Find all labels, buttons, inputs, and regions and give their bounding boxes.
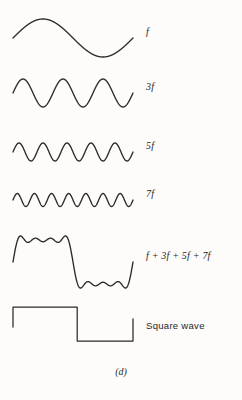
- waveform-f: [13, 19, 133, 57]
- waveform-canvas: [0, 0, 242, 400]
- fourier-square-wave-figure: f 3f 5f 7f f + 3f + 5f + 7f Square wave …: [0, 0, 242, 400]
- wave-label-7f: 7f: [146, 188, 154, 199]
- figure-caption: (d): [0, 366, 242, 377]
- wave-label-sum: f + 3f + 5f + 7f: [146, 250, 211, 261]
- waveform-3f: [13, 79, 133, 107]
- waveform-sum: [13, 236, 133, 288]
- wave-label-3f: 3f: [146, 81, 154, 92]
- wave-label-f: f: [146, 26, 149, 37]
- wave-label-square-wave: Square wave: [146, 320, 205, 331]
- waveform-square: [13, 307, 133, 341]
- waveform-7f: [13, 194, 133, 207]
- wave-label-5f: 5f: [146, 140, 154, 151]
- waveform-5f: [13, 143, 133, 161]
